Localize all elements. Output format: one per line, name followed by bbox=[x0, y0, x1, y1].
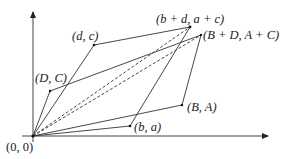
point-ba bbox=[129, 125, 132, 128]
point-sum-upper bbox=[200, 34, 202, 36]
point-sum-lower bbox=[189, 26, 192, 29]
label-origin: (0, 0) bbox=[6, 141, 33, 154]
edge-BA-sum-upper bbox=[182, 35, 201, 105]
edge-DC-sum-upper bbox=[50, 35, 201, 91]
point-BA bbox=[181, 104, 183, 106]
diagonal-upper-dashed bbox=[33, 35, 201, 136]
label-DC: (D, C) bbox=[35, 72, 67, 85]
point-dc bbox=[93, 44, 96, 47]
point-origin bbox=[31, 134, 34, 137]
edge-origin-DC bbox=[33, 91, 50, 136]
label-BA: (B, A) bbox=[187, 101, 217, 114]
label-sum-upper: (B + D, A + C) bbox=[203, 29, 279, 42]
label-ba: (b, a) bbox=[134, 121, 161, 134]
edge-dc-sum-lower bbox=[94, 27, 190, 45]
label-dc: (d, c) bbox=[72, 30, 98, 43]
point-DC bbox=[49, 90, 51, 92]
edge-origin-dc bbox=[33, 45, 94, 136]
edge-ba-sum-lower bbox=[130, 27, 190, 126]
label-sum-lower: (b + d, a + c) bbox=[156, 13, 224, 26]
